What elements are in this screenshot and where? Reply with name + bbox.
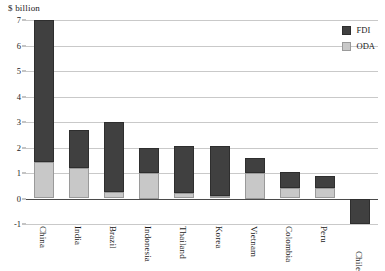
bar-group[interactable] xyxy=(245,20,265,224)
y-axis-tick-label: -1 xyxy=(14,219,26,229)
y-axis-tick-label: 4 xyxy=(17,92,26,102)
bar-segment-fdi-negative[interactable] xyxy=(350,199,370,225)
bar-segment-fdi[interactable] xyxy=(139,148,159,174)
legend-item[interactable]: ODA xyxy=(342,42,375,51)
y-axis-tick-label: 3 xyxy=(17,117,26,127)
y-axis-unit-caption: $ billion xyxy=(8,3,40,13)
bar-segment-oda[interactable] xyxy=(104,192,124,199)
bar-segment-fdi[interactable] xyxy=(280,172,300,188)
y-axis-tick-label: 5 xyxy=(17,66,26,76)
legend-label: ODA xyxy=(357,42,375,51)
plot-area: -101234567 xyxy=(26,20,378,224)
bars-layer xyxy=(26,20,378,224)
bar-group[interactable] xyxy=(210,20,230,224)
x-axis-labels: ChinaIndiaBrazilIndonesiaThailandKoreaVi… xyxy=(26,224,378,267)
bar-segment-fdi[interactable] xyxy=(69,130,89,168)
bar-segment-fdi[interactable] xyxy=(315,176,335,189)
bar-segment-oda[interactable] xyxy=(245,173,265,199)
bar-group[interactable] xyxy=(315,20,335,224)
y-axis-tick-label: 2 xyxy=(17,143,26,153)
x-axis-label: Indonesia xyxy=(143,226,153,262)
bar-group[interactable] xyxy=(34,20,54,224)
x-axis-label: Brazil xyxy=(108,226,118,249)
x-axis-label: China xyxy=(38,226,48,248)
bar-segment-oda[interactable] xyxy=(69,168,89,199)
legend: FDIODA xyxy=(342,26,375,51)
bar-segment-fdi[interactable] xyxy=(104,122,124,192)
legend-label: FDI xyxy=(357,26,371,35)
x-axis-label: Thailand xyxy=(178,226,188,259)
legend-item[interactable]: FDI xyxy=(342,26,375,35)
bar-segment-oda[interactable] xyxy=(139,173,159,199)
y-axis-tick-label: 7 xyxy=(17,15,26,25)
bar-segment-oda[interactable] xyxy=(34,162,54,199)
bar-segment-oda[interactable] xyxy=(280,188,300,199)
legend-swatch-oda xyxy=(342,42,351,51)
x-axis-label: India xyxy=(73,226,83,245)
bar-segment-fdi[interactable] xyxy=(34,20,54,162)
bar-segment-fdi[interactable] xyxy=(245,158,265,173)
x-axis-label: Korea xyxy=(214,226,224,249)
bar-segment-fdi[interactable] xyxy=(210,146,230,196)
x-axis-label: Peru xyxy=(319,226,329,243)
bar-group[interactable] xyxy=(174,20,194,224)
legend-swatch-fdi xyxy=(342,26,351,35)
bar-segment-oda[interactable] xyxy=(210,196,230,199)
x-axis-label: Chile xyxy=(354,251,364,271)
bar-segment-oda[interactable] xyxy=(174,193,194,199)
bar-group[interactable] xyxy=(139,20,159,224)
bar-segment-oda[interactable] xyxy=(315,188,335,198)
bar-segment-fdi[interactable] xyxy=(174,146,194,192)
bar-group[interactable] xyxy=(69,20,89,224)
bar-group[interactable] xyxy=(280,20,300,224)
y-axis-tick-label: 0 xyxy=(17,194,26,204)
x-axis-label: Colombia xyxy=(284,226,294,262)
x-axis-label: Vietnam xyxy=(249,226,259,257)
y-axis-tick-label: 1 xyxy=(17,168,26,178)
bar-group[interactable] xyxy=(104,20,124,224)
y-axis-tick-label: 6 xyxy=(17,41,26,51)
